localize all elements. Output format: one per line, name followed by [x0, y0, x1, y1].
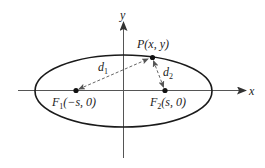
ellipse-diagram [0, 0, 265, 168]
distance-d2-line [154, 61, 164, 87]
focus-f2-label: F2(s, 0) [150, 96, 186, 111]
x-axis-label: x [249, 85, 254, 97]
point-p-label: P(x, y) [137, 38, 169, 50]
focus-f2-point [162, 88, 167, 93]
distance-d1-label: d1 [98, 61, 108, 76]
point-p-coords: (x, y) [144, 37, 169, 51]
point-p [150, 55, 155, 60]
focus-f2-coords: (s, 0) [161, 95, 186, 109]
focus-f1-label: F1(−s, 0) [52, 96, 96, 111]
d2-subscript: 2 [169, 72, 173, 81]
distance-d2-label: d2 [163, 66, 173, 81]
focus-f1-point [73, 88, 78, 93]
d1-subscript: 1 [104, 67, 108, 76]
distance-d1-line [79, 59, 148, 89]
y-axis-label: y [120, 9, 125, 21]
focus-f1-coords: (−s, 0) [63, 95, 96, 109]
